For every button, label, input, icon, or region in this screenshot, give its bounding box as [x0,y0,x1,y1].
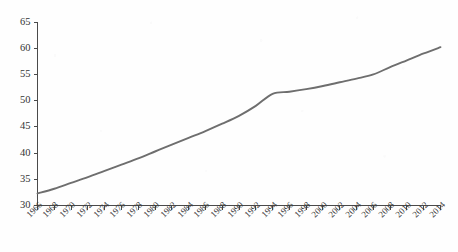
y-tick-label: 60 [9,43,31,54]
y-tick-label: 40 [9,148,31,159]
y-tick-label: 35 [9,174,31,185]
y-tick-marks [34,22,38,206]
y-tick-label: 55 [9,69,31,80]
y-tick-label: 65 [9,17,31,28]
y-axis [34,22,38,206]
y-tick-label: 45 [9,121,31,132]
data-series-line [38,47,441,193]
line-chart: 3035404550556065 19661968197019721974197… [0,0,458,252]
y-tick-label: 50 [9,95,31,106]
